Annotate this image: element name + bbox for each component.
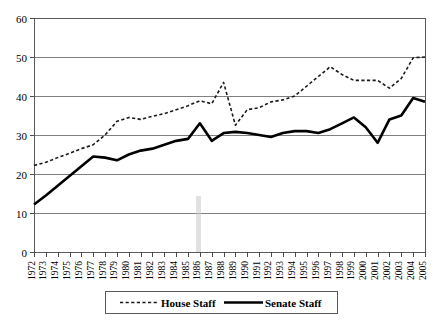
x-axis-label-1992: 1992 bbox=[263, 261, 273, 280]
x-axis-label-1978: 1978 bbox=[98, 261, 108, 280]
x-axis-label-1979: 1979 bbox=[109, 261, 119, 280]
legend-label-senate-staff: Senate Staff bbox=[265, 297, 322, 309]
x-axis-label-1974: 1974 bbox=[50, 261, 60, 280]
x-axis-label-1987: 1987 bbox=[204, 261, 214, 280]
x-axis-label-1990: 1990 bbox=[240, 261, 250, 280]
x-axis-label-2004: 2004 bbox=[406, 261, 416, 280]
x-axis-label-1995: 1995 bbox=[299, 261, 309, 280]
x-axis-label-1991: 1991 bbox=[252, 261, 262, 280]
x-axis-label-2003: 2003 bbox=[394, 261, 404, 280]
series-line-house-staff bbox=[34, 57, 425, 165]
x-axis-label-1980: 1980 bbox=[121, 261, 131, 280]
x-axis-label-2000: 2000 bbox=[358, 261, 368, 280]
x-axis-label-1977: 1977 bbox=[86, 261, 96, 280]
x-axis-label-1985: 1985 bbox=[181, 261, 191, 280]
x-axis-label-1989: 1989 bbox=[228, 261, 238, 280]
x-axis-label-1984: 1984 bbox=[169, 261, 179, 280]
x-axis-label-1976: 1976 bbox=[74, 261, 84, 280]
scan-artifact bbox=[196, 196, 201, 252]
x-axis-label-1993: 1993 bbox=[275, 261, 285, 280]
line-chart: 0102030405060 19721973197419751976197719… bbox=[0, 0, 441, 323]
y-axis-labels: 0102030405060 bbox=[16, 13, 28, 259]
x-axis-label-1997: 1997 bbox=[323, 261, 333, 280]
x-axis-label-1998: 1998 bbox=[335, 261, 345, 280]
y-axis-ticks bbox=[30, 19, 34, 253]
x-axis-label-1983: 1983 bbox=[157, 261, 167, 280]
x-axis-label-1988: 1988 bbox=[216, 261, 226, 280]
x-axis-label-1973: 1973 bbox=[38, 261, 48, 280]
x-axis-label-1999: 1999 bbox=[346, 261, 356, 280]
legend-label-house-staff: House Staff bbox=[161, 297, 216, 309]
gridlines bbox=[34, 19, 425, 253]
y-axis-label-20: 20 bbox=[16, 169, 28, 181]
x-axis-label-1981: 1981 bbox=[133, 261, 143, 280]
y-axis-label-30: 30 bbox=[16, 130, 28, 142]
y-axis-label-10: 10 bbox=[16, 208, 28, 220]
x-axis-label-2005: 2005 bbox=[418, 261, 428, 280]
x-axis-label-1972: 1972 bbox=[27, 261, 37, 280]
y-axis-label-0: 0 bbox=[22, 247, 28, 259]
x-axis-labels: 1972197319741975197619771978197919801981… bbox=[27, 261, 428, 280]
y-axis-label-50: 50 bbox=[16, 52, 28, 64]
data-series bbox=[34, 57, 425, 204]
x-axis-label-1994: 1994 bbox=[287, 261, 297, 280]
x-axis-label-1986: 1986 bbox=[192, 261, 202, 280]
y-axis-label-40: 40 bbox=[16, 91, 28, 103]
x-axis-label-1982: 1982 bbox=[145, 261, 155, 280]
series-line-senate-staff bbox=[34, 98, 425, 204]
y-axis-label-60: 60 bbox=[16, 13, 28, 25]
x-axis-label-1975: 1975 bbox=[62, 261, 72, 280]
chart-figure: 0102030405060 19721973197419751976197719… bbox=[0, 0, 441, 323]
x-axis-label-1996: 1996 bbox=[311, 261, 321, 280]
chart-legend: House StaffSenate Staff bbox=[106, 292, 338, 314]
x-axis-label-2001: 2001 bbox=[370, 261, 380, 280]
x-axis-label-2002: 2002 bbox=[382, 261, 392, 280]
